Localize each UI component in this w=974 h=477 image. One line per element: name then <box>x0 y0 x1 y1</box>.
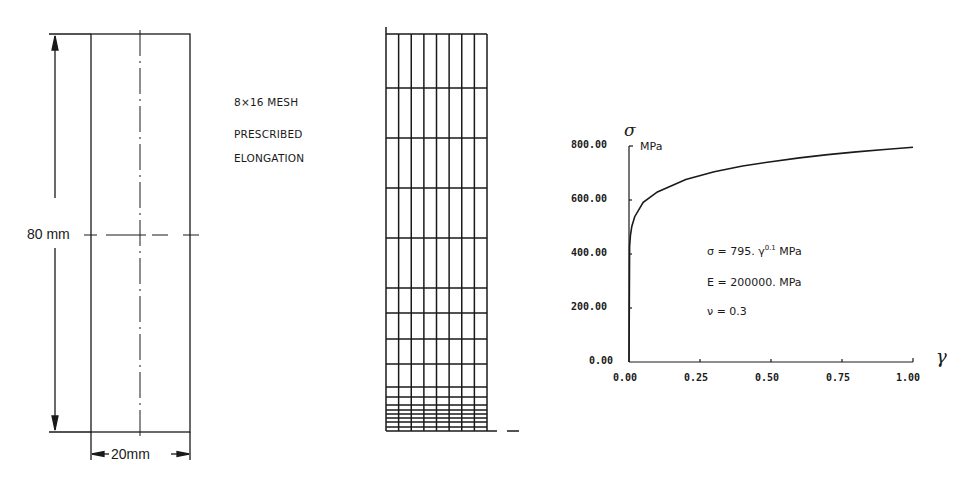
y-tick-200: 200.00 <box>571 301 607 312</box>
sigma-axis-symbol: σ <box>624 120 636 140</box>
y-tick-0: 0.00 <box>589 355 613 366</box>
y-tick-800: 800.00 <box>571 139 607 150</box>
gamma-axis-symbol: γ <box>936 346 947 367</box>
x-tick-0: 0.00 <box>613 372 637 383</box>
poisson-ratio-equation: ν = 0.3 <box>707 305 747 318</box>
x-tick-100: 1.00 <box>896 372 920 383</box>
material-law-equation: σ = 795. γ0.1 MPa <box>707 244 802 258</box>
y-tick-600: 600.00 <box>571 193 607 204</box>
stress-strain-chart <box>0 0 974 477</box>
y-unit-label: MPa <box>640 140 662 153</box>
y-tick-400: 400.00 <box>571 247 607 258</box>
equation-unit: MPa <box>776 245 802 258</box>
youngs-modulus-equation: E = 200000. MPa <box>707 276 802 289</box>
x-tick-025: 0.25 <box>684 372 708 383</box>
equation-exponent: 0.1 <box>765 244 776 252</box>
x-tick-075: 0.75 <box>826 372 850 383</box>
equation-sigma: σ = 795. γ <box>707 245 765 258</box>
x-tick-050: 0.50 <box>755 372 779 383</box>
